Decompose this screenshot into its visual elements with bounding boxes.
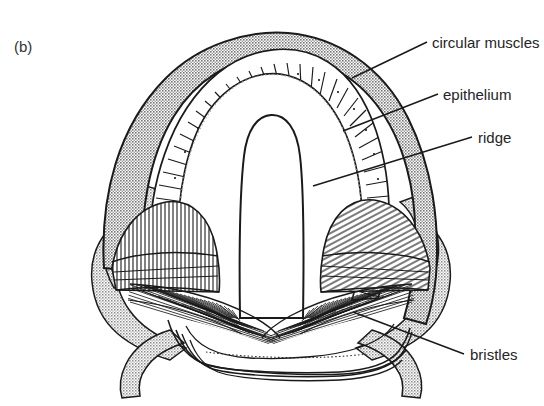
label-circular-muscles: circular muscles — [432, 34, 540, 51]
label-ridge: ridge — [478, 129, 511, 146]
label-bristles: bristles — [470, 346, 518, 363]
panel-label: (b) — [14, 38, 32, 55]
central-ridge — [240, 115, 304, 318]
anatomy-diagram: (b) circular muscles epithelium ridge br… — [0, 0, 544, 406]
figure-panel-b: (b) circular muscles epithelium ridge br… — [0, 0, 544, 406]
label-epithelium: epithelium — [443, 86, 511, 103]
